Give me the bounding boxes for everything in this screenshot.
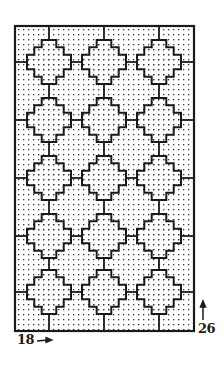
motif-layer [27, 40, 181, 314]
stepped-cross-motif [27, 156, 71, 200]
stepped-cross-motif [27, 214, 71, 258]
stepped-cross-motif [82, 98, 126, 142]
stepped-cross-motif [82, 156, 126, 200]
width-label: 18 [17, 333, 34, 346]
stepped-cross-motif [137, 270, 181, 314]
pattern-diagram [0, 0, 221, 376]
stepped-cross-motif [137, 214, 181, 258]
stepped-cross-motif [82, 214, 126, 258]
stepped-cross-motif [137, 40, 181, 84]
height-label: 26 [198, 322, 215, 335]
stepped-cross-motif [137, 156, 181, 200]
stepped-cross-motif [137, 98, 181, 142]
stepped-cross-motif [27, 98, 71, 142]
height-arrow-icon [201, 301, 206, 320]
stepped-cross-motif [82, 270, 126, 314]
width-arrow-icon [37, 338, 52, 343]
stepped-cross-motif [27, 40, 71, 84]
stepped-cross-motif [27, 270, 71, 314]
stepped-cross-motif [82, 40, 126, 84]
